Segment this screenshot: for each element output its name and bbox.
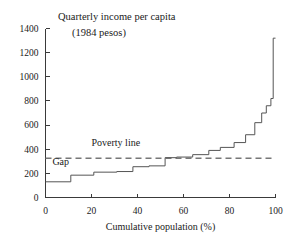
- y-tick-label: 0: [34, 193, 39, 203]
- chart-title: Quarterly income per capita: [58, 11, 176, 22]
- y-tick-label: 600: [24, 120, 39, 130]
- x-axis-title: Cumulative population (%): [106, 221, 215, 233]
- x-tick-label: 100: [268, 206, 283, 216]
- x-tick-label: 80: [225, 206, 235, 216]
- x-tick-label: 40: [133, 206, 143, 216]
- x-tick-label: 0: [43, 206, 48, 216]
- chart-subtitle: (1984 pesos): [72, 27, 126, 39]
- gap-label: Gap: [52, 156, 69, 167]
- y-tick-label: 1000: [20, 72, 39, 82]
- x-tick-label: 60: [179, 206, 189, 216]
- step-chart: 0200400600800100012001400020406080100Qua…: [0, 0, 296, 237]
- y-tick-label: 400: [24, 145, 39, 155]
- y-tick-label: 1200: [20, 48, 39, 58]
- y-tick-label: 800: [24, 96, 39, 106]
- x-tick-label: 20: [87, 206, 97, 216]
- income-step-curve: [46, 38, 276, 182]
- y-tick-label: 1400: [20, 24, 39, 34]
- y-tick-label: 200: [24, 169, 39, 179]
- poverty-line-label: Poverty line: [92, 137, 141, 148]
- chart-figure: 0200400600800100012001400020406080100Qua…: [0, 0, 296, 237]
